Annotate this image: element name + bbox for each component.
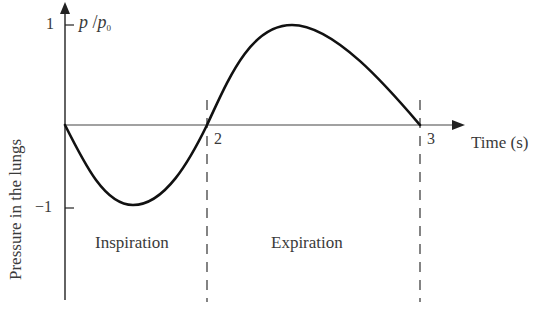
- x-tick-label-3: 3: [427, 130, 435, 148]
- unit-subscript: 0: [107, 23, 112, 33]
- unit-p: p: [79, 12, 88, 32]
- unit-p0: p: [98, 12, 107, 32]
- y-unit-label: p /p0: [79, 12, 111, 33]
- unit-slash: /: [88, 12, 98, 32]
- x-axis-arrow-icon: [452, 120, 465, 130]
- x-tick-label-2: 2: [214, 130, 222, 148]
- phase-label-inspiration: Inspiration: [95, 233, 169, 253]
- pressure-curve: [65, 25, 420, 205]
- y-axis-arrow-icon: [60, 2, 70, 14]
- chart-canvas: [0, 0, 540, 327]
- y-tick-label-1: 1: [46, 15, 54, 33]
- x-axis-label: Time (s): [471, 133, 528, 153]
- y-axis-label: Pressure in the lungs: [6, 139, 26, 280]
- phase-label-expiration: Expiration: [271, 233, 343, 253]
- y-tick-label-minus-1: −1: [35, 198, 52, 216]
